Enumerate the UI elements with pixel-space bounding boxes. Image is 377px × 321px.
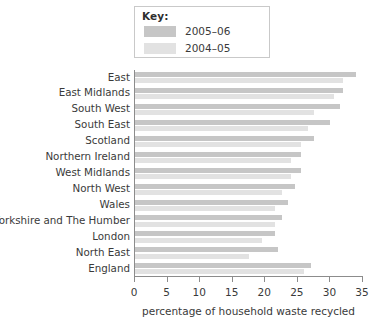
bar-series-1 bbox=[135, 215, 282, 220]
x-axis-tick-label: 25 bbox=[290, 286, 303, 298]
category-label: North East bbox=[76, 246, 130, 259]
bar-group: Northern Ireland bbox=[135, 150, 363, 166]
x-axis-tick bbox=[362, 277, 363, 282]
bar-series-2 bbox=[135, 254, 249, 259]
category-label: East bbox=[108, 71, 130, 84]
bar-series-2 bbox=[135, 190, 282, 195]
x-axis-tick bbox=[199, 277, 200, 282]
bar-series-1 bbox=[135, 247, 278, 252]
bar-group: South East bbox=[135, 118, 363, 134]
legend-entry-2004-05: 2004–05 bbox=[144, 42, 230, 54]
bar-series-1 bbox=[135, 136, 314, 141]
x-axis-tick-label: 15 bbox=[225, 286, 238, 298]
x-axis-tick-label: 0 bbox=[131, 286, 138, 298]
category-label: South West bbox=[71, 102, 130, 115]
bar-series-1 bbox=[135, 184, 295, 189]
bar-series-1 bbox=[135, 152, 301, 157]
bar-series-1 bbox=[135, 72, 356, 77]
bar-series-2 bbox=[135, 126, 308, 131]
legend-swatch-2004-05 bbox=[144, 43, 176, 54]
bar-series-2 bbox=[135, 158, 291, 163]
category-label: West Midlands bbox=[56, 166, 130, 179]
category-label: London bbox=[92, 230, 130, 243]
bar-series-2 bbox=[135, 269, 304, 274]
category-label: Wales bbox=[100, 198, 130, 211]
bar-series-1 bbox=[135, 168, 301, 173]
x-axis-tick-label: 10 bbox=[192, 286, 205, 298]
bar-group: North East bbox=[135, 245, 363, 261]
category-label: England bbox=[88, 262, 130, 275]
x-axis-tick bbox=[297, 277, 298, 282]
plot-area: percentage of household waste recycled E… bbox=[134, 70, 363, 277]
bar-series-1 bbox=[135, 88, 343, 93]
bar-group: England bbox=[135, 261, 363, 277]
x-axis-title: percentage of household waste recycled bbox=[134, 305, 363, 317]
x-axis-tick-label: 35 bbox=[355, 286, 368, 298]
legend-swatch-2005-06 bbox=[144, 26, 176, 37]
bar-group: East Midlands bbox=[135, 86, 363, 102]
category-label: East Midlands bbox=[59, 86, 130, 99]
bar-group: Wales bbox=[135, 197, 363, 213]
category-label: Scotland bbox=[85, 134, 130, 147]
x-axis-tick-label: 5 bbox=[163, 286, 170, 298]
bar-series-2 bbox=[135, 110, 314, 115]
x-axis-tick bbox=[329, 277, 330, 282]
legend-entry-2005-06: 2005–06 bbox=[144, 25, 230, 37]
bar-series-2 bbox=[135, 174, 291, 179]
x-axis-tick bbox=[264, 277, 265, 282]
bar-group: London bbox=[135, 229, 363, 245]
bar-series-1 bbox=[135, 231, 275, 236]
x-axis-tick bbox=[167, 277, 168, 282]
bar-group: Scotland bbox=[135, 134, 363, 150]
legend-title: Key: bbox=[142, 10, 169, 22]
legend-label-2005-06: 2005–06 bbox=[185, 25, 230, 37]
bar-chart: Key: 2005–06 2004–05 percentage of house… bbox=[0, 0, 377, 321]
category-label: North West bbox=[73, 182, 130, 195]
chart-legend: Key: 2005–06 2004–05 bbox=[134, 6, 270, 58]
bar-group: South West bbox=[135, 102, 363, 118]
bar-group: East bbox=[135, 70, 363, 86]
bar-group: Yorkshire and The Humber bbox=[135, 213, 363, 229]
bar-series-2 bbox=[135, 142, 301, 147]
legend-label-2004-05: 2004–05 bbox=[185, 42, 230, 54]
bar-group: North West bbox=[135, 181, 363, 197]
bar-series-1 bbox=[135, 120, 330, 125]
bar-series-1 bbox=[135, 104, 340, 109]
x-axis-tick-label: 30 bbox=[323, 286, 336, 298]
x-axis-tick bbox=[134, 277, 135, 282]
bar-series-2 bbox=[135, 238, 262, 243]
x-axis-tick bbox=[232, 277, 233, 282]
bar-series-1 bbox=[135, 200, 288, 205]
bar-series-2 bbox=[135, 222, 275, 227]
bar-series-2 bbox=[135, 78, 343, 83]
bar-series-2 bbox=[135, 206, 275, 211]
category-label: Yorkshire and The Humber bbox=[0, 214, 130, 227]
bar-series-1 bbox=[135, 263, 311, 268]
category-label: Northern Ireland bbox=[45, 150, 130, 163]
x-axis-tick-label: 20 bbox=[258, 286, 271, 298]
bar-group: West Midlands bbox=[135, 166, 363, 182]
bar-series-2 bbox=[135, 94, 334, 99]
category-label: South East bbox=[75, 118, 130, 131]
